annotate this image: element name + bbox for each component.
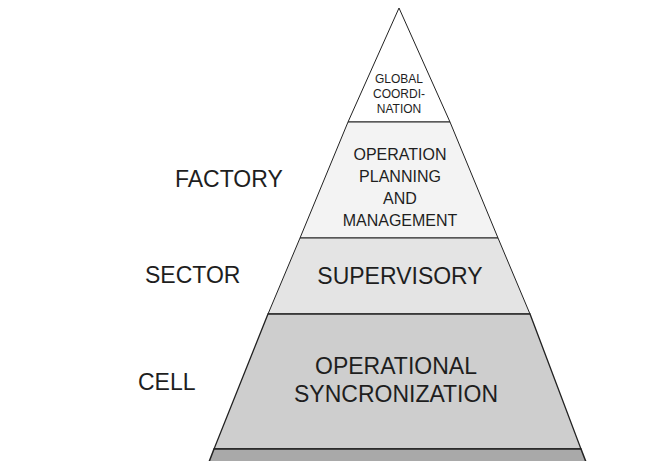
label-line: NATION (359, 102, 439, 117)
level-label-global-coordination: GLOBAL COORDI- NATION (359, 72, 439, 117)
side-label-factory: FACTORY (175, 166, 283, 193)
level-label-operational-sync: OPERATIONAL SYNCRONIZATION (270, 352, 522, 408)
label-line: GLOBAL (359, 72, 439, 87)
label-line: AND (320, 188, 480, 210)
label-line: SYNCRONIZATION (270, 380, 522, 408)
level-label-operation-planning: OPERATION PLANNING AND MANAGEMENT (320, 144, 480, 232)
label-line: OPERATION (320, 144, 480, 166)
label-line: PLANNING (320, 166, 480, 188)
label-line: MANAGEMENT (320, 210, 480, 232)
label-line: SUPERVISORY (290, 262, 510, 290)
label-line: OPERATIONAL (270, 352, 522, 380)
label-line: COORDI- (359, 87, 439, 102)
side-label-sector: SECTOR (145, 262, 240, 289)
pyramid-level-base (209, 449, 586, 461)
level-label-supervisory: SUPERVISORY (290, 262, 510, 290)
side-label-cell: CELL (138, 369, 196, 396)
